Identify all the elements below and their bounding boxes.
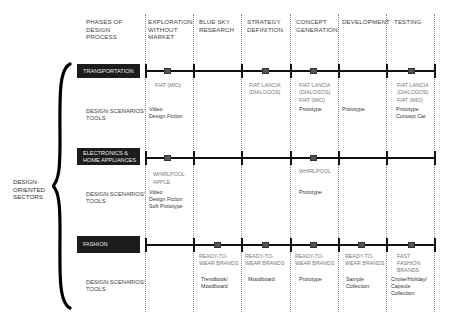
- company-cell: FIAT LANCIA (DIALOGOS) FIAT (MIO): [299, 82, 345, 103]
- company-name: (DIALOGOS): [249, 89, 295, 96]
- phase-marker: [310, 68, 317, 74]
- phase-header-testing: TESTING: [394, 18, 422, 26]
- phase-marker: [310, 242, 317, 248]
- phase-marker: [164, 68, 171, 74]
- tool-item: Cruise/Holiday/: [391, 276, 437, 283]
- label-line: TOOLS: [86, 286, 145, 293]
- label-line: ORIENTED: [13, 186, 45, 194]
- timeline-tick: [145, 238, 147, 252]
- timeline-tick: [338, 64, 340, 78]
- tool-item: Soft Prototype: [149, 203, 195, 210]
- company-name: BRANDS: [397, 267, 443, 274]
- tool-cell: Video Design Fiction: [149, 106, 195, 120]
- timeline-tick: [290, 64, 292, 78]
- timeline-tick: [193, 151, 195, 165]
- tool-item: Moodboard: [248, 276, 294, 283]
- header-phases-of-design-process: PHASES OF DESIGN PROCESS: [86, 18, 122, 41]
- company-name: FIAT (MIO): [299, 97, 345, 104]
- tools-label: DESIGN SCENARIOS' TOOLS: [86, 279, 145, 293]
- company-cell: FIAT LANCIA (DIALOGOS): [249, 82, 295, 96]
- header-line: DESIGN: [86, 26, 122, 34]
- tools-label: DESIGN SCENARIOS' TOOLS: [86, 108, 145, 122]
- label-line: TOOLS: [86, 198, 145, 205]
- tools-label: DESIGN SCENARIOS' TOOLS: [86, 191, 145, 205]
- sector-label-transportation: TRANSPORTATION: [77, 64, 140, 78]
- company-name: (DIALOGOS): [397, 89, 443, 96]
- tool-item: Capsule: [391, 283, 437, 290]
- company-name: WEAR BRANDS: [199, 260, 245, 267]
- timeline-tick: [386, 238, 388, 252]
- timeline-tick: [241, 64, 243, 78]
- phase-marker: [262, 68, 269, 74]
- phase-marker: [408, 68, 415, 74]
- company-name: FIAT (MIO): [155, 82, 201, 89]
- company-name: READY-TO-: [245, 253, 291, 260]
- phase-marker: [164, 155, 171, 161]
- company-name: READY-TO-: [199, 253, 245, 260]
- tool-item: Prototype: [396, 106, 442, 113]
- timeline-tick: [386, 64, 388, 78]
- header-line: TESTING: [394, 18, 422, 26]
- company-name: WEAR BRANDS: [345, 260, 391, 267]
- tool-cell: Prototype: [342, 106, 388, 113]
- tool-cell: Video Design Fiction Soft Prototype: [149, 189, 195, 209]
- phase-marker: [358, 242, 365, 248]
- tool-cell: Prototype: [299, 106, 345, 113]
- tool-item: Sample: [346, 276, 392, 283]
- timeline-tick: [145, 64, 147, 78]
- label-line: DESIGN SCENARIOS': [86, 279, 145, 286]
- phase-header-exploration: EXPLORATION WITHOUT MARKET: [148, 18, 193, 41]
- company-name: FIAT LANCIA: [249, 82, 295, 89]
- company-cell: READY-TO- WEAR BRANDS: [345, 253, 391, 267]
- header-line: PHASES OF: [86, 18, 122, 26]
- company-cell: FAST FASHION BRANDS: [397, 253, 443, 273]
- timeline-tick: [338, 238, 340, 252]
- tool-cell: Trendbook/ Moodboard: [201, 276, 247, 290]
- company-name: FASHION: [397, 260, 443, 267]
- phase-header-blue-sky: BLUE SKY RESEARCH: [199, 18, 234, 33]
- company-name: FIAT (MIO): [397, 97, 443, 104]
- company-cell: READY-TO- WEAR BRANDS: [295, 253, 341, 267]
- sector-name: TRANSPORTATION: [83, 68, 134, 75]
- tool-cell: Prototype: [299, 276, 345, 283]
- timeline-tick: [338, 151, 340, 165]
- sector-name: FASHION: [83, 241, 108, 248]
- sector-name: HOME APPLIANCES: [83, 157, 136, 164]
- timeline-tick: [193, 238, 195, 252]
- timeline-tick: [193, 64, 195, 78]
- design-oriented-sectors-label: DESIGN- ORIENTED SECTORS: [13, 178, 45, 201]
- label-line: DESIGN SCENARIOS': [86, 191, 145, 198]
- timeline-tick: [434, 64, 436, 78]
- tool-item: Prototype: [342, 106, 388, 113]
- label-line: SECTORS: [13, 193, 45, 201]
- tool-cell: Cruise/Holiday/ Capsule Collection: [391, 276, 437, 296]
- company-name: FAST: [397, 253, 443, 260]
- company-name: FIAT LANCIA: [299, 82, 345, 89]
- header-line: MARKET: [148, 33, 193, 41]
- timeline-tick: [386, 151, 388, 165]
- company-name: WEAR BRANDS: [245, 260, 291, 267]
- tool-item: Prototype: [299, 276, 345, 283]
- tool-cell: Prototype Concept Car: [396, 106, 442, 120]
- timeline-tick: [434, 151, 436, 165]
- phase-header-strategy: STRATEGY DEFINITION: [247, 18, 283, 33]
- header-line: PROCESS: [86, 33, 122, 41]
- company-name: (DIALOGOS): [299, 89, 345, 96]
- timeline-tick: [241, 238, 243, 252]
- company-cell: WHIRLPOOL APPLE: [153, 170, 199, 186]
- phase-marker: [214, 242, 221, 248]
- timeline-tick: [290, 238, 292, 252]
- tool-cell: Sample Collection: [346, 276, 392, 290]
- company-name: WHIRLPOOL: [299, 168, 345, 175]
- header-line: GENERATION: [296, 26, 337, 34]
- tool-item: Concept Car: [396, 113, 442, 120]
- company-name: READY-TO-: [295, 253, 341, 260]
- timeline-tick: [241, 151, 243, 165]
- timeline-tick: [434, 238, 436, 252]
- company-cell: FIAT LANCIA (DIALOGOS) FIAT (MIO): [397, 82, 443, 103]
- header-line: WITHOUT: [148, 26, 193, 34]
- header-line: DEVELOPMENT: [342, 18, 390, 26]
- sector-label-fashion: FASHION: [77, 236, 140, 253]
- phase-marker: [310, 155, 317, 161]
- tool-item: Video: [149, 106, 195, 113]
